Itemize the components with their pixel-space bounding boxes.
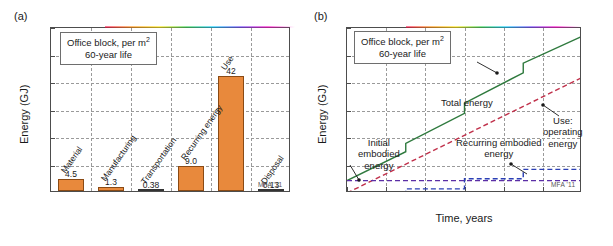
bar-use[interactable] bbox=[218, 76, 244, 192]
scan-artifact bbox=[105, 26, 295, 28]
bar-manufacturing[interactable] bbox=[98, 187, 124, 191]
panel-a-y-axis-title: Energy (GJ) bbox=[18, 84, 30, 143]
panel-b-callout-box: Office block, per m2 60-year life bbox=[354, 31, 451, 64]
panel-a-gridline bbox=[51, 166, 289, 167]
panel-b-x-axis-title: Time, years bbox=[436, 212, 493, 224]
label-recurring-line2: energy bbox=[484, 148, 513, 159]
panel-a-watermark: MFA '11 bbox=[258, 181, 282, 188]
label-recurring-line1: Recurring embodied bbox=[456, 137, 542, 148]
leader-use-head bbox=[541, 103, 545, 107]
panel-a-y-tick bbox=[51, 138, 55, 139]
bar-category-label: Manufacturing bbox=[99, 134, 138, 184]
label-use-line1: Use: bbox=[553, 115, 573, 126]
panel-a-gridline bbox=[51, 111, 289, 112]
label-initial-line1: Initial bbox=[368, 137, 390, 148]
panel-a-letter: (a) bbox=[14, 10, 27, 22]
panel-b: (b) Energy (GJ) Time, years 010203040506… bbox=[306, 0, 613, 246]
panel-a-gridline-v bbox=[251, 28, 252, 191]
leader-recurring-head bbox=[509, 162, 513, 166]
panel-a-callout-line1: Office block, per m bbox=[67, 37, 146, 48]
panel-a-y-tick bbox=[51, 56, 55, 57]
label-total-energy: Total energy bbox=[441, 97, 493, 108]
label-use-line2: operating bbox=[543, 126, 583, 137]
panel-a-callout-superscript: 2 bbox=[146, 36, 150, 43]
panel-a-gridline-v bbox=[171, 28, 172, 191]
bar-recurring-energy[interactable] bbox=[178, 166, 204, 191]
label-use-operating-energy: Use: operating energy bbox=[543, 115, 583, 149]
panel-b-callout-line2: 60-year life bbox=[379, 48, 426, 59]
bar-category-label: Transportation bbox=[139, 135, 178, 185]
figure-root: (a) Energy (GJ) 01020304050604.5Material… bbox=[0, 0, 613, 246]
panel-a-y-tick bbox=[51, 83, 55, 84]
label-use-line3: energy bbox=[548, 138, 577, 149]
panel-a-y-tick bbox=[51, 28, 55, 29]
panel-b-letter: (b) bbox=[314, 10, 327, 22]
panel-b-callout-line1: Office block, per m bbox=[361, 36, 440, 47]
label-recurring-embodied-energy: Recurring embodied energy bbox=[456, 137, 542, 160]
bar-material[interactable] bbox=[58, 179, 84, 191]
panel-a-gridline bbox=[51, 83, 289, 84]
leader-initial-head bbox=[357, 178, 361, 182]
panel-a-callout-box: Office block, per m2 60-year life bbox=[60, 32, 157, 65]
label-initial-line2: embodied bbox=[358, 148, 400, 159]
leader-total-energy-head bbox=[495, 71, 499, 75]
leader-total-energy bbox=[477, 62, 497, 73]
panel-a: (a) Energy (GJ) 01020304050604.5Material… bbox=[0, 0, 306, 246]
panel-a-y-tick bbox=[51, 166, 55, 167]
label-initial-embodied-energy: Initial embodied energy bbox=[358, 137, 400, 171]
panel-a-y-tick bbox=[51, 111, 55, 112]
panel-b-watermark: MFA '11 bbox=[551, 181, 575, 188]
label-initial-line3: energy bbox=[364, 160, 393, 171]
panel-b-callout-superscript: 2 bbox=[440, 35, 444, 42]
scan-artifact bbox=[406, 26, 581, 28]
panel-a-callout-line2: 60-year life bbox=[85, 49, 132, 60]
panel-b-y-axis-title: Energy (GJ) bbox=[316, 84, 328, 143]
